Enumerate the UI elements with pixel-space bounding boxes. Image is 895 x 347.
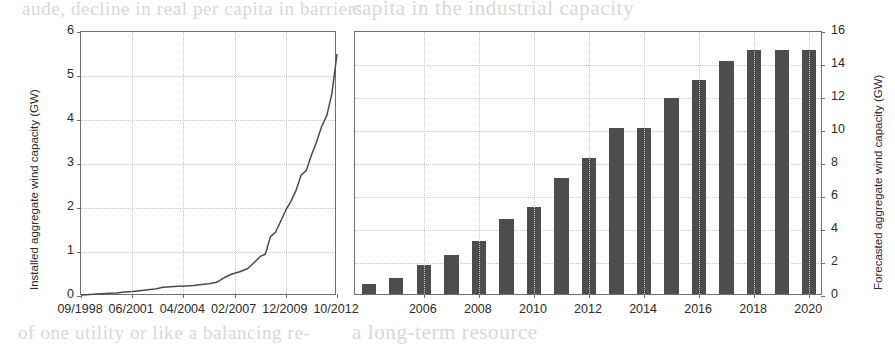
right-chart-y-tick-label: 6: [831, 189, 857, 202]
right-chart-tick-mark: [821, 164, 825, 165]
figure-wind-capacity: Installed aggregate wind capacity (GW) 0…: [0, 0, 895, 347]
right-chart-tick-mark-x: [754, 294, 755, 298]
right-chart-tick-mark: [821, 230, 825, 231]
bar-2004: [362, 284, 376, 294]
bar-2019: [775, 50, 789, 294]
bar-2009: [499, 219, 513, 294]
chart-forecasted-capacity: Forecasted aggregate wind capacity (GW) …: [0, 0, 895, 347]
right-chart-tick-mark-x: [809, 294, 810, 298]
right-chart-y-tick-label: 0: [831, 288, 857, 301]
right-chart-gridline-v: [589, 32, 590, 294]
right-chart-x-tick-label: 2012: [562, 303, 614, 316]
bar-2007: [444, 255, 458, 294]
right-chart-gridline-v: [754, 32, 755, 294]
right-chart-y-axis-title: Forecasted aggregate wind capacity (GW): [872, 75, 884, 290]
right-chart-tick-mark: [821, 32, 825, 33]
right-chart-y-tick-label: 16: [831, 24, 857, 37]
right-chart-y-tick-label: 10: [831, 123, 857, 136]
right-chart-x-tick-label: 2006: [397, 303, 449, 316]
right-chart-y-tick-label: 4: [831, 222, 857, 235]
right-chart-tick-mark: [821, 98, 825, 99]
right-chart-y-tick-label: 2: [831, 255, 857, 268]
right-chart-tick-mark: [821, 65, 825, 66]
right-chart-y-tick-label: 8: [831, 156, 857, 169]
right-chart-x-tick-label: 2010: [507, 303, 559, 316]
right-chart-x-tick-label: 2018: [727, 303, 779, 316]
right-chart-tick-mark-x: [424, 294, 425, 298]
right-chart-x-tick-label: 2016: [672, 303, 724, 316]
right-chart-tick-mark: [821, 296, 825, 297]
right-chart-tick-mark-x: [534, 294, 535, 298]
bar-2013: [609, 128, 623, 294]
right-chart-tick-mark-x: [644, 294, 645, 298]
right-chart-plot-area: [354, 31, 822, 295]
right-chart-tick-mark-x: [479, 294, 480, 298]
bar-2015: [664, 98, 678, 294]
right-chart-y-tick-label: 14: [831, 57, 857, 70]
right-chart-tick-mark: [821, 263, 825, 264]
right-chart-gridline-v: [644, 32, 645, 294]
right-chart-gridline-v: [534, 32, 535, 294]
right-chart-x-tick-label: 2014: [617, 303, 669, 316]
right-chart-gridline-v: [699, 32, 700, 294]
right-chart-gridline-v: [809, 32, 810, 294]
right-chart-tick-mark-x: [699, 294, 700, 298]
bar-2017: [719, 61, 733, 294]
right-chart-gridline-v: [424, 32, 425, 294]
right-chart-y-tick-label: 12: [831, 90, 857, 103]
right-chart-tick-mark-x: [589, 294, 590, 298]
right-chart-tick-mark: [821, 131, 825, 132]
right-chart-x-tick-label: 2020: [782, 303, 834, 316]
bar-2011: [554, 178, 568, 294]
right-chart-tick-mark: [821, 197, 825, 198]
right-chart-gridline-v: [479, 32, 480, 294]
bar-2005: [389, 278, 403, 295]
right-chart-x-tick-label: 2008: [452, 303, 504, 316]
